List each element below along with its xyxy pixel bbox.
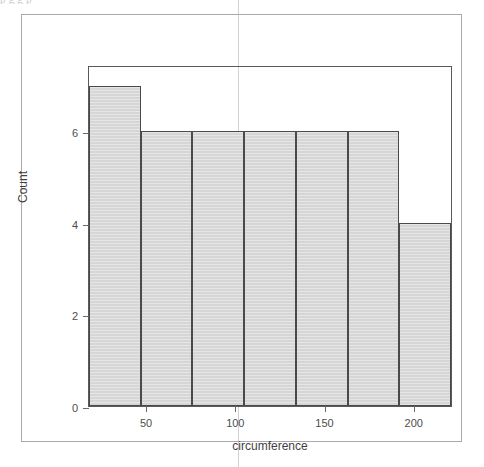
x-tick-label: 200 [405, 417, 423, 429]
y-tick-label: 0 [72, 402, 78, 414]
histogram-bars [89, 67, 451, 406]
y-tick-label: 2 [72, 310, 78, 322]
plot-panel: 0246 50100150200 [88, 66, 452, 407]
x-tick-label: 100 [226, 417, 244, 429]
histogram-bar [296, 131, 348, 406]
y-tick-label: 4 [72, 219, 78, 231]
histogram-bar [244, 131, 296, 406]
x-tick-mark [235, 406, 236, 412]
y-tick-mark [83, 316, 89, 317]
y-tick-mark [83, 225, 89, 226]
histogram-bar [399, 223, 451, 406]
x-tick-mark [325, 406, 326, 412]
histogram-bar [89, 86, 141, 406]
histogram-bar [348, 131, 400, 406]
histogram-bar [141, 131, 193, 406]
y-tick-mark [83, 408, 89, 409]
histogram-bar [192, 131, 244, 406]
x-axis-label: circumference [88, 439, 452, 453]
y-tick-mark [83, 133, 89, 134]
figure-frame: 0246 50100150200 circumference Count [21, 14, 462, 442]
x-tick-label: 150 [315, 417, 333, 429]
y-tick-label: 6 [72, 127, 78, 139]
x-tick-mark [146, 406, 147, 412]
clipped-header-text: p g g p [0, 0, 484, 4]
x-tick-label: 50 [140, 417, 152, 429]
y-axis-label: Count [16, 171, 30, 203]
page-canvas: p g g p 0246 50100150200 circumference C… [0, 0, 484, 467]
x-tick-mark [414, 406, 415, 412]
